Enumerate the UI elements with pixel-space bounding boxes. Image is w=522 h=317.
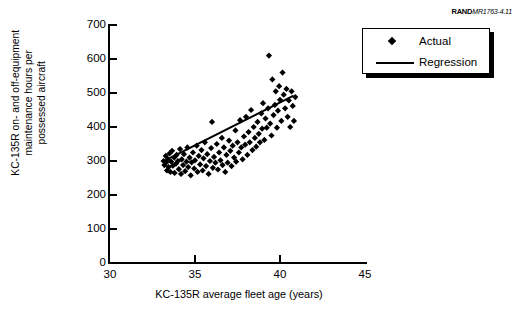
legend-entry-actual: Actual — [363, 31, 489, 52]
data-point — [223, 152, 229, 158]
data-point — [276, 83, 282, 89]
data-point — [210, 165, 216, 171]
diamond-marker-icon — [388, 37, 396, 45]
data-point — [222, 169, 228, 175]
data-point — [252, 135, 258, 141]
x-tick-label-45: 45 — [345, 268, 385, 280]
y-axis-title-line-2: possessed aircraft — [36, 0, 49, 228]
x-axis-title: KC-135R average fleet age (years) — [110, 288, 368, 300]
data-point — [241, 133, 247, 139]
data-point — [232, 127, 238, 133]
data-point — [244, 152, 250, 158]
y-tick-label-400: 400 — [70, 121, 106, 133]
scatter-plot-canvas — [110, 25, 365, 263]
data-point — [275, 108, 281, 114]
plot-area — [110, 25, 365, 263]
data-point — [268, 132, 274, 138]
y-axis-title-line-0: KC-135R on- and off-equipment — [9, 0, 22, 228]
data-point — [219, 135, 225, 141]
data-point — [288, 88, 294, 94]
y-tick-label-300: 300 — [70, 155, 106, 167]
data-point — [259, 126, 265, 132]
data-point — [269, 76, 275, 82]
data-point — [245, 129, 251, 135]
data-point — [240, 156, 246, 162]
data-point — [230, 143, 236, 149]
data-point — [256, 131, 262, 137]
legend-key-actual — [373, 31, 417, 52]
data-point — [290, 103, 296, 109]
data-point — [270, 112, 276, 118]
data-point — [251, 124, 257, 130]
document-id-text: MR1763-4.11 — [472, 8, 512, 15]
data-point — [227, 148, 233, 154]
data-point — [283, 86, 289, 92]
rand-logo-text: RAND — [451, 7, 472, 16]
data-point — [273, 88, 279, 94]
data-point — [279, 70, 285, 76]
legend-label-regression: Regression — [419, 55, 477, 70]
figure-container: RANDMR1763-4.11 0100200300400500600700 3… — [0, 0, 522, 317]
data-point — [197, 161, 203, 167]
data-point — [216, 149, 222, 155]
data-point — [212, 160, 218, 166]
data-point — [274, 125, 280, 131]
data-point — [214, 141, 220, 147]
data-point — [278, 118, 284, 124]
y-tick-label-500: 500 — [70, 87, 106, 99]
legend-entry-regression: Regression — [363, 52, 489, 73]
data-point — [208, 145, 214, 151]
data-point — [188, 172, 194, 178]
data-point — [200, 167, 206, 173]
data-point — [226, 138, 232, 144]
data-point — [206, 171, 212, 177]
data-point — [211, 154, 217, 160]
data-point — [209, 119, 215, 125]
legend-label-actual: Actual — [419, 34, 451, 49]
data-point — [234, 139, 240, 145]
data-point — [248, 107, 254, 113]
data-point — [172, 170, 178, 176]
y-axis-title-line-1: maintenance hours per — [22, 0, 35, 228]
y-tick-label-100: 100 — [70, 223, 106, 235]
data-point — [254, 119, 260, 125]
data-point — [285, 114, 291, 120]
chart-legend: Actual Regression — [362, 28, 490, 74]
x-tick-label-40: 40 — [260, 268, 300, 280]
data-point — [207, 158, 213, 164]
legend-key-regression — [373, 52, 417, 73]
x-tick-label-30: 30 — [90, 268, 130, 280]
data-point — [287, 124, 293, 130]
data-point — [204, 151, 210, 157]
data-point — [262, 115, 268, 121]
data-point — [198, 147, 204, 153]
data-point — [236, 149, 242, 155]
y-tick-label-700: 700 — [70, 19, 106, 31]
y-axis-title: KC-135R on- and off-equipmentmaintenance… — [9, 0, 49, 228]
x-tick-label-35: 35 — [175, 268, 215, 280]
y-tick-label-0: 0 — [70, 257, 106, 269]
data-point — [203, 163, 209, 169]
data-point — [260, 100, 266, 106]
data-point — [190, 149, 196, 155]
y-tick-label-600: 600 — [70, 53, 106, 65]
data-point — [215, 166, 221, 172]
data-point — [267, 121, 273, 127]
data-point — [221, 144, 227, 150]
data-point — [291, 118, 297, 124]
data-point — [266, 53, 272, 59]
rand-credit-line: RANDMR1763-4.11 — [451, 7, 512, 16]
data-point — [282, 105, 288, 111]
line-marker-icon — [376, 62, 414, 64]
data-point — [281, 92, 287, 98]
data-point — [264, 125, 270, 131]
y-tick-label-200: 200 — [70, 189, 106, 201]
